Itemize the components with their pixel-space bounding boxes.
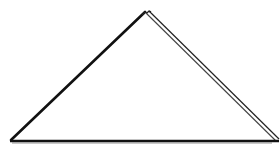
triangle-figure bbox=[0, 0, 280, 147]
triangle-left-edge bbox=[11, 12, 145, 140]
diagram-canvas bbox=[0, 0, 280, 147]
triangle-right-edge-inner bbox=[146, 13, 276, 141]
triangle-right-edge-outer bbox=[149, 11, 279, 139]
